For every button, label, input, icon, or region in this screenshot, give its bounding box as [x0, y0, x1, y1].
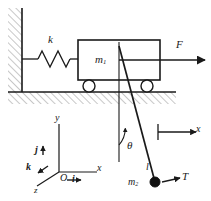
mechanics-diagram-figure: k m1 F θ l m2 T x y x z O i j k: [0, 0, 211, 201]
spring-constant-label: k: [48, 34, 53, 45]
origin-label: O: [60, 173, 67, 183]
spring-element: [22, 51, 78, 67]
frame-y-axis-label: y: [55, 113, 59, 123]
ground-hatching: [8, 92, 176, 104]
cart-mass-label: m1: [95, 54, 106, 66]
wheel-right: [141, 80, 153, 92]
wall-hatching: [8, 8, 22, 92]
pendulum-bob: [150, 177, 160, 187]
frame-x-axis-label: x: [97, 163, 101, 173]
tension-label: T: [182, 171, 188, 182]
angle-label: θ: [127, 140, 132, 151]
diagram-canvas: [0, 0, 211, 201]
pendulum-x-axis: [158, 124, 196, 140]
spring-coils: [38, 51, 70, 67]
unit-vector-j-label: j: [35, 145, 38, 155]
wheel-left: [83, 80, 95, 92]
angle-arc: [119, 129, 125, 146]
bob-mass-label: m2: [128, 177, 138, 187]
rod-length-label: l: [146, 162, 149, 172]
pendulum-x-axis-label: x: [196, 124, 200, 134]
tension-arrow: [162, 178, 180, 182]
ground-surface: [8, 92, 176, 104]
frame-z-axis-label: z: [34, 186, 38, 195]
wall-support: [8, 8, 22, 92]
applied-force-label: F: [176, 39, 183, 50]
unit-vector-k-label: k: [26, 162, 31, 172]
unit-vector-k-arrow: [38, 166, 48, 173]
frame-z-axis: [37, 172, 59, 186]
unit-vector-i-label: i: [72, 174, 75, 184]
